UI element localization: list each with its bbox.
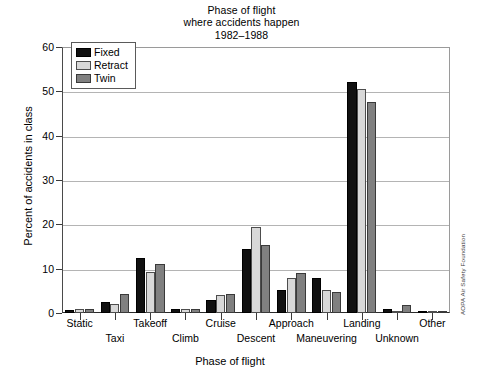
x-axis-tick-label: Landing	[343, 317, 380, 329]
x-axis-tick-mark	[115, 313, 116, 320]
x-axis-tick-mark	[256, 313, 257, 320]
y-axis-tick-label: 60	[0, 41, 62, 53]
x-axis-tick-mark	[185, 313, 186, 320]
x-axis-tick-mark	[397, 313, 398, 320]
chart-title-line-2: where accidents happen	[0, 16, 483, 28]
legend-swatch-fixed	[76, 48, 91, 57]
y-axis-tick-label: 50	[0, 85, 62, 97]
x-axis-label: Phase of flight	[0, 355, 460, 367]
legend-item-fixed: Fixed	[76, 46, 128, 59]
legend-item-twin: Twin	[76, 72, 128, 85]
x-axis-tick-mark	[327, 313, 328, 320]
legend-item-retract: Retract	[76, 59, 128, 72]
x-axis-tick-label: Unknown	[375, 332, 419, 344]
legend-label: Fixed	[94, 47, 120, 58]
bar-twin-other	[438, 311, 447, 313]
chart-title: Phase of flight where accidents happen 1…	[0, 4, 483, 41]
x-axis-tick-label: Descent	[237, 332, 276, 344]
legend-swatch-retract	[76, 61, 91, 70]
x-axis-tick-label: Static	[66, 317, 92, 329]
x-axis-tick-label: Climb	[172, 332, 199, 344]
chart-figure: Phase of flight where accidents happen 1…	[0, 0, 483, 380]
chart-title-line-3: 1982–1988	[0, 29, 483, 41]
x-axis-tick-label: Other	[419, 317, 445, 329]
chart-legend: FixedRetractTwin	[71, 42, 136, 89]
y-axis-tick-mark	[56, 313, 62, 314]
x-axis-tick-label: Approach	[269, 317, 314, 329]
legend-label: Twin	[94, 73, 116, 84]
legend-label: Retract	[94, 60, 128, 71]
y-axis-tick-label: 40	[0, 130, 62, 142]
y-axis-tick-label: 30	[0, 174, 62, 186]
x-axis-tick-label: Takeoff	[133, 317, 167, 329]
bar-fixed-other	[418, 311, 427, 313]
chart-title-line-1: Phase of flight	[0, 4, 483, 16]
x-axis-tick-label: Maneuvering	[296, 332, 357, 344]
y-axis-tick-label: 0	[0, 307, 62, 319]
y-axis-tick-label: 20	[0, 218, 62, 230]
legend-swatch-twin	[76, 74, 91, 83]
x-axis-tick-label: Taxi	[106, 332, 125, 344]
source-credit: AOPA Air Safety Foundation	[459, 215, 466, 335]
x-axis-tick-label: Cruise	[206, 317, 236, 329]
y-axis-tick-label: 10	[0, 263, 62, 275]
